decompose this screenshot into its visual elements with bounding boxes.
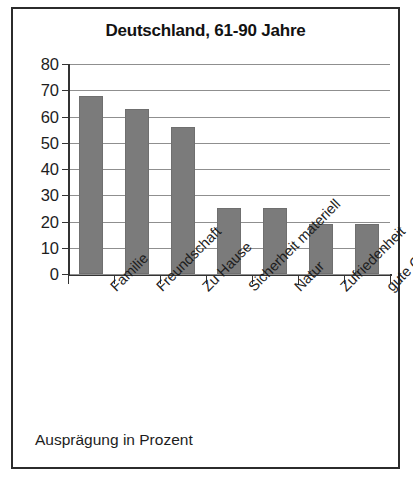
chart-figure: Deutschland, 61-90 Jahre 010203040506070… <box>11 7 400 469</box>
y-tick-label: 80 <box>41 55 59 74</box>
gridline <box>68 195 390 196</box>
y-tick-mark <box>62 195 70 196</box>
y-tick-mark <box>62 90 70 91</box>
y-tick-mark <box>62 169 70 170</box>
gridline <box>68 64 390 65</box>
footer-note: Ausprägung in Prozent <box>35 431 193 449</box>
y-tick-mark <box>62 64 70 65</box>
x-category-label: Familie <box>107 283 118 294</box>
bar <box>79 96 103 275</box>
plot-area: 01020304050607080 <box>68 64 390 274</box>
y-tick-mark <box>62 117 70 118</box>
x-category-label: Sicherheit materiell <box>245 283 256 294</box>
y-tick-mark <box>62 248 70 249</box>
bar <box>125 109 149 274</box>
y-tick-label: 60 <box>41 107 59 126</box>
gridline <box>68 143 390 144</box>
x-category-label: Zu Hause <box>199 283 210 294</box>
y-tick-label: 30 <box>41 186 59 205</box>
gridline <box>68 117 390 118</box>
y-tick-label: 70 <box>41 81 59 100</box>
x-axis-category-labels: FamilieFreundschaftZu HauseSicherheit ma… <box>68 277 398 397</box>
gridline <box>68 169 390 170</box>
x-category-label: Freundschaft <box>153 283 164 294</box>
y-tick-label: 10 <box>41 238 59 257</box>
y-tick-label: 40 <box>41 160 59 179</box>
chart-title: Deutschland, 61-90 Jahre <box>13 21 398 41</box>
y-tick-mark <box>62 222 70 223</box>
x-category-label: gute Gespräche <box>383 283 394 294</box>
y-tick-mark <box>62 143 70 144</box>
x-category-label: Natur <box>291 283 302 294</box>
x-category-label: Zufriedenheit <box>337 283 348 294</box>
y-tick-label: 0 <box>50 265 59 284</box>
y-tick-label: 20 <box>41 212 59 231</box>
gridline <box>68 90 390 91</box>
y-tick-label: 50 <box>41 133 59 152</box>
